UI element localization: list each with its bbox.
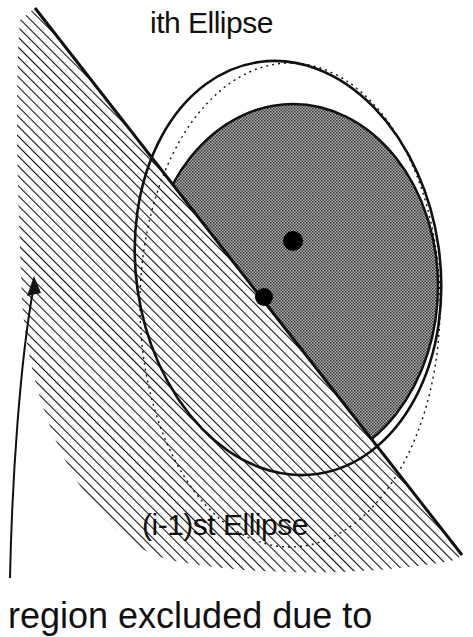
ith-ellipse-label: ith Ellipse (150, 6, 273, 40)
region-caption: region excluded due to (8, 595, 372, 637)
new-center-point (283, 231, 303, 251)
prev-ellipse-label: (i-1)st Ellipse (142, 508, 308, 542)
old-center-point (255, 288, 273, 306)
